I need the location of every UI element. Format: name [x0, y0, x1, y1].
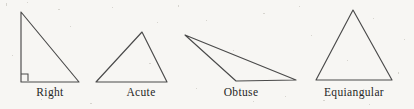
label-right-triangle: Right — [8, 85, 92, 99]
acute-triangle-group — [96, 32, 167, 82]
triangle-classification-figure: Right Acute Obtuse Equiangular — [0, 0, 414, 109]
acute-triangle-icon — [96, 32, 167, 82]
obtuse-triangle-icon — [185, 35, 296, 81]
equiangular-triangle-icon — [316, 10, 392, 80]
obtuse-triangle-group — [185, 35, 296, 81]
right-triangle-group — [21, 12, 79, 82]
equiangular-triangle-group — [316, 10, 392, 80]
right-angle-marker-icon — [21, 74, 28, 81]
right-triangle-icon — [21, 12, 79, 82]
label-equiangular-triangle: Equiangular — [300, 85, 408, 99]
label-obtuse-triangle: Obtuse — [198, 85, 284, 99]
label-acute-triangle: Acute — [100, 85, 182, 99]
triangle-labels-row: Right Acute Obtuse Equiangular — [0, 85, 414, 103]
